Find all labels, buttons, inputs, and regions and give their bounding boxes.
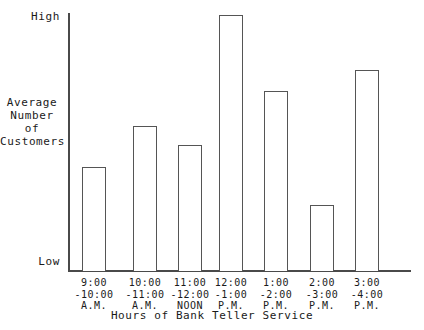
bar-chart: High Low Average Number of Customers 9:0… [0, 0, 424, 330]
x-axis-title: Hours of Bank Teller Service [0, 309, 424, 322]
bar [355, 70, 379, 271]
x-axis-tick-label-line-2: -4:00 [335, 289, 399, 301]
bar [219, 15, 243, 271]
bar [310, 205, 334, 271]
x-axis-tick-label: 3:00-4:00P.M. [335, 277, 399, 312]
bar [178, 145, 202, 271]
bar [133, 126, 157, 271]
x-axis-tick-label-line-1: 3:00 [335, 277, 399, 289]
bar [264, 91, 288, 271]
bar [82, 167, 106, 271]
